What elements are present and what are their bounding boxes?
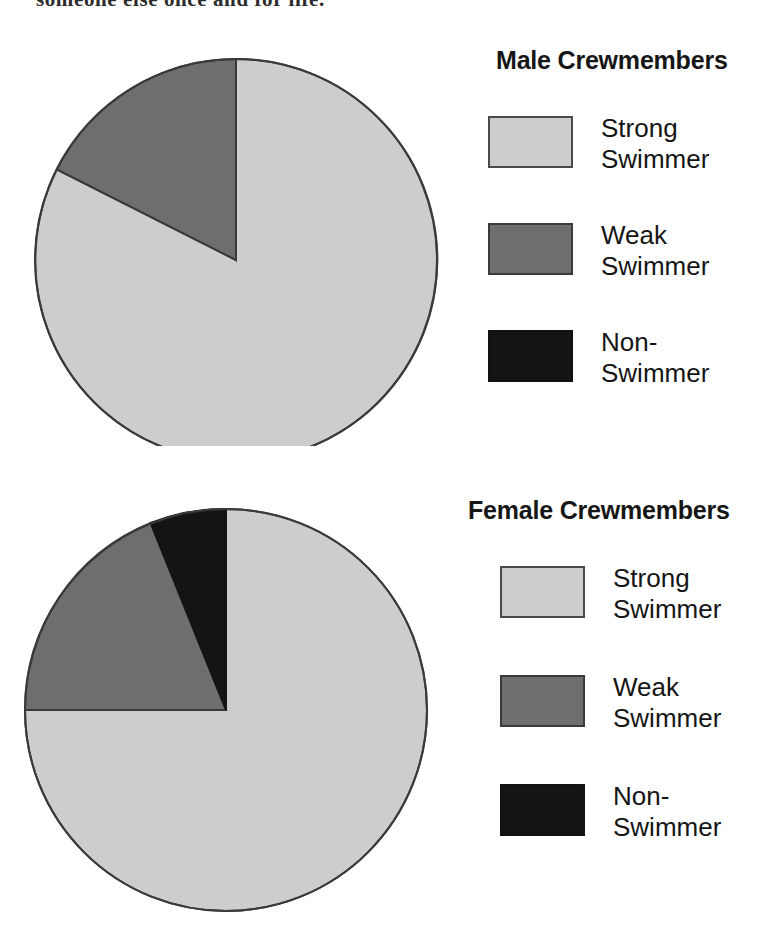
male-legend-item-strong-swimmer[interactable]: Strong Swimmer — [488, 113, 761, 175]
female-crewmembers-chart-block: Female Crewmembers Strong Swimmer Weak S… — [0, 490, 761, 931]
legend-swatch-icon-non-swimmer — [488, 330, 573, 382]
female-legend-label-strong-swimmer: Strong Swimmer — [613, 563, 721, 625]
legend-swatch-icon-weak-swimmer — [500, 675, 585, 727]
legend-swatch-icon-non-swimmer — [500, 784, 585, 836]
page-top-text-fragment: someone else once and for life. — [36, 0, 466, 12]
male-legend-item-weak-swimmer[interactable]: Weak Swimmer — [488, 220, 761, 282]
male-legend-title: Male Crewmembers — [488, 46, 761, 75]
male-legend-items: Strong Swimmer Weak Swimmer Non- Swimmer — [488, 113, 761, 389]
legend-swatch-icon-strong-swimmer — [488, 116, 573, 168]
male-legend-item-non-swimmer[interactable]: Non- Swimmer — [488, 327, 761, 389]
male-pie-svg — [30, 34, 442, 446]
male-legend-label-non-swimmer: Non- Swimmer — [601, 327, 709, 389]
male-legend-label-strong-swimmer: Strong Swimmer — [601, 113, 709, 175]
female-crewmembers-legend: Female Crewmembers Strong Swimmer Weak S… — [468, 496, 761, 890]
female-legend-items: Strong Swimmer Weak Swimmer Non- Swimmer — [468, 563, 761, 843]
female-legend-item-strong-swimmer[interactable]: Strong Swimmer — [468, 563, 761, 625]
male-crewmembers-pie-chart — [30, 34, 442, 446]
female-legend-item-non-swimmer[interactable]: Non- Swimmer — [468, 781, 761, 843]
female-crewmembers-pie-chart — [20, 504, 432, 916]
legend-swatch-icon-weak-swimmer — [488, 223, 573, 275]
legend-swatch-icon-strong-swimmer — [500, 566, 585, 618]
female-pie-svg — [20, 504, 432, 916]
male-legend-label-weak-swimmer: Weak Swimmer — [601, 220, 709, 282]
female-legend-label-non-swimmer: Non- Swimmer — [613, 781, 721, 843]
female-legend-label-weak-swimmer: Weak Swimmer — [613, 672, 721, 734]
male-crewmembers-chart-block: Male Crewmembers Strong Swimmer Weak Swi… — [0, 20, 761, 470]
male-crewmembers-legend: Male Crewmembers Strong Swimmer Weak Swi… — [488, 46, 761, 389]
female-legend-title: Female Crewmembers — [468, 496, 761, 525]
female-legend-item-weak-swimmer[interactable]: Weak Swimmer — [468, 672, 761, 734]
